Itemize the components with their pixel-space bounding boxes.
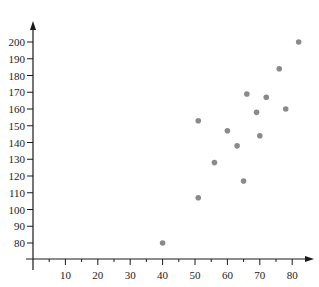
- data-point: [296, 39, 302, 45]
- y-axis-arrow-icon: [30, 21, 36, 30]
- data-point: [241, 178, 247, 184]
- y-tick-label: 160: [9, 103, 26, 115]
- data-point: [212, 160, 218, 166]
- x-tick-label: 40: [157, 269, 169, 281]
- y-tick-label: 200: [9, 36, 26, 48]
- data-point: [283, 106, 289, 112]
- x-tick-label: 10: [60, 269, 72, 281]
- y-tick-label: 130: [9, 153, 26, 165]
- data-point: [276, 66, 282, 72]
- y-tick-label: 170: [9, 86, 26, 98]
- data-point: [244, 91, 250, 97]
- x-tick-label: 20: [92, 269, 104, 281]
- x-tick-label: 70: [254, 269, 266, 281]
- x-tick-label: 60: [222, 269, 234, 281]
- x-tick-label: 80: [287, 269, 299, 281]
- y-tick-label: 110: [9, 187, 26, 199]
- data-point: [195, 195, 201, 201]
- scatter-plot: 1020304050607080 80901001101201301401501…: [0, 0, 319, 287]
- x-tick-label: 50: [190, 269, 202, 281]
- data-point: [234, 143, 240, 149]
- data-point: [254, 110, 260, 116]
- data-points: [160, 39, 302, 246]
- data-point: [195, 118, 201, 124]
- x-axis: 1020304050607080: [26, 256, 314, 281]
- y-tick-label: 100: [9, 204, 26, 216]
- y-tick-label: 150: [9, 120, 26, 132]
- x-axis-arrow-icon: [305, 256, 314, 262]
- data-point: [160, 240, 166, 246]
- y-tick-label: 90: [14, 220, 26, 232]
- data-point: [263, 94, 269, 100]
- y-tick-label: 80: [14, 237, 26, 249]
- x-tick-label: 30: [125, 269, 137, 281]
- y-axis: 8090100110120130140150160170180190200: [9, 21, 37, 270]
- y-tick-label: 190: [9, 53, 26, 65]
- data-point: [257, 133, 263, 139]
- y-tick-label: 140: [9, 137, 26, 149]
- data-point: [225, 128, 231, 134]
- y-tick-label: 120: [9, 170, 26, 182]
- y-tick-label: 180: [9, 70, 26, 82]
